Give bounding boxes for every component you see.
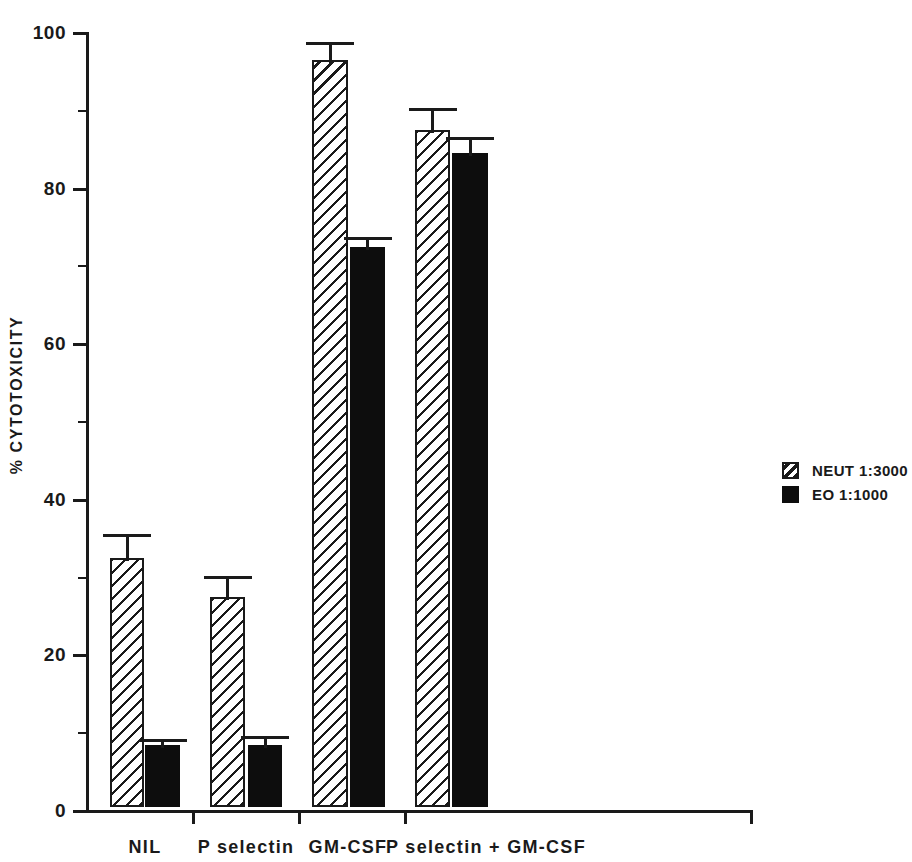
errorbar-cap <box>344 237 392 240</box>
errorbar-stem <box>126 534 129 561</box>
y-tick-label-80: 80 <box>44 178 66 197</box>
y-tick-minor-10 <box>78 732 86 734</box>
bar-pselectin-gmcsf-eo <box>452 153 488 807</box>
y-tick-label-60: 60 <box>44 334 66 353</box>
x-tick-group-separator-1 <box>192 813 195 824</box>
y-tick-20: 20 <box>73 654 86 657</box>
bar-pselectin-eo <box>248 745 282 807</box>
y-tick-minor-30 <box>78 577 86 579</box>
errorbar-cap <box>204 576 252 579</box>
plot-area: 100 80 60 40 20 0 <box>86 32 752 810</box>
x-axis-end-cap <box>750 813 753 824</box>
errorbar-nil-neut <box>110 534 144 561</box>
y-tick-80: 80 <box>73 188 86 191</box>
bar-gmcsf-neut <box>312 60 348 807</box>
bar-nil-neut <box>110 558 144 807</box>
solid-swatch-icon <box>782 486 799 503</box>
y-tick-0: 0 <box>73 810 86 813</box>
errorbar-cap <box>446 137 494 140</box>
bar-pselectin-neut <box>210 597 245 807</box>
bar-gmcsf-eo <box>350 247 385 807</box>
y-tick-60: 60 <box>73 343 86 346</box>
x-label-gm-csf: GM-CSF <box>309 838 388 856</box>
legend: NEUT 1:3000 EO 1:1000 <box>782 462 908 510</box>
y-tick-minor-90 <box>78 110 86 112</box>
y-tick-40: 40 <box>73 499 86 502</box>
bar-nil-eo <box>145 745 180 807</box>
legend-label-eo: EO 1:1000 <box>812 486 888 503</box>
errorbar-cap <box>306 42 354 45</box>
legend-item-eo: EO 1:1000 <box>782 486 908 503</box>
y-tick-label-40: 40 <box>44 489 66 508</box>
x-label-nil: NIL <box>129 838 162 856</box>
y-tick-minor-50 <box>78 421 86 423</box>
errorbar-cap <box>139 739 187 742</box>
hatched-swatch-icon <box>782 462 799 479</box>
errorbar-cap <box>409 108 457 111</box>
legend-item-neut: NEUT 1:3000 <box>782 462 908 479</box>
x-tick-group-separator-2 <box>298 813 301 824</box>
y-tick-label-20: 20 <box>44 645 66 664</box>
y-tick-100: 100 <box>73 32 86 35</box>
x-label-p-selectin-gm-csf: P selectin + GM-CSF <box>386 838 586 856</box>
bar-chart-figure: % CYTOTOXICITY 100 80 60 40 20 0 <box>0 0 912 862</box>
errorbar-cap <box>103 534 151 537</box>
y-axis-title: % CYTOTOXICITY <box>8 316 26 475</box>
x-label-p-selectin: P selectin <box>198 838 295 856</box>
y-tick-label-0: 0 <box>55 801 66 820</box>
errorbar-cap <box>241 736 289 739</box>
x-tick-group-separator-3 <box>404 813 407 824</box>
legend-label-neut: NEUT 1:3000 <box>812 462 908 479</box>
y-tick-minor-70 <box>78 265 86 267</box>
y-axis-line <box>86 32 89 811</box>
bar-pselectin-gmcsf-neut <box>415 130 450 807</box>
y-tick-label-100: 100 <box>33 23 66 42</box>
x-axis-line <box>86 810 753 813</box>
